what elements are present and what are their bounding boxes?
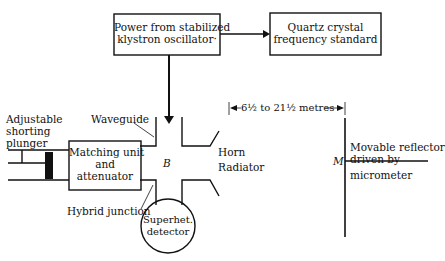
matching-line-2: and xyxy=(69,158,141,170)
plunger-line-3: plunger xyxy=(6,137,62,149)
reflector-line-2: driven by xyxy=(350,153,445,165)
plunger-block xyxy=(45,152,53,179)
junction-letter: B xyxy=(163,157,171,169)
klystron-line-1: Power from stabilized xyxy=(114,21,220,33)
waveguide-label: Waveguide xyxy=(91,113,149,125)
matching-label: Matching unit and attenuator xyxy=(69,146,141,182)
quartz-line-1: Quartz crystal xyxy=(270,21,381,33)
horn-line-2: Radiator xyxy=(218,160,264,175)
klystron-line-2: klystron oscillator· xyxy=(114,33,220,45)
reflector-letter: M xyxy=(333,155,344,167)
reflector-line-3: micrometer xyxy=(350,169,445,181)
reflector-label: Movable reflector driven by micrometer xyxy=(350,141,445,181)
quartz-label: Quartz crystal frequency standard xyxy=(270,21,381,45)
distance-label: 6½ to 21½ metres xyxy=(241,102,334,114)
matching-line-1: Matching unit xyxy=(69,146,141,158)
reflector-line-1: Movable reflector xyxy=(350,141,445,153)
plunger-line-2: shorting xyxy=(6,125,62,137)
detector-label: Superhet. detector xyxy=(141,214,195,238)
quartz-line-2: frequency standard xyxy=(270,33,381,45)
detector-line-2: detector xyxy=(141,226,195,238)
plunger-line-1: Adjustable xyxy=(6,113,62,125)
horn-label: Horn Radiator xyxy=(218,145,264,175)
plunger-label: Adjustable shorting plunger xyxy=(6,113,62,149)
hybrid-junction-label: Hybrid junction xyxy=(67,205,151,217)
horn-line-1: Horn xyxy=(218,145,264,160)
matching-line-3: attenuator xyxy=(69,170,141,182)
klystron-label: Power from stabilized klystron oscillato… xyxy=(114,21,220,45)
